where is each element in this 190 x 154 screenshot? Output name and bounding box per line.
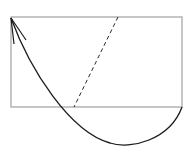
diagram-canvas: [0, 0, 190, 154]
curved-arrow: [11, 18, 182, 145]
dashed-line: [74, 17, 118, 107]
arrowhead-icon: [11, 18, 26, 44]
